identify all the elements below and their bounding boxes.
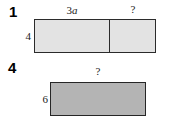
bottom-rectangle — [50, 82, 146, 116]
top-rectangle-divider — [109, 20, 110, 52]
bottom-rect-height-label: 6 — [36, 94, 48, 105]
problem-number-4: 4 — [8, 60, 16, 75]
top-rect-right-part-label: ? — [110, 4, 156, 15]
area-model-figure: 1 3a ? 4 4 ? 6 — [0, 0, 170, 120]
top-rectangle — [34, 19, 156, 53]
top-rect-height-label: 4 — [18, 31, 31, 42]
bottom-rect-width-label: ? — [74, 66, 122, 77]
problem-number-1: 1 — [9, 4, 17, 19]
top-rect-left-part-label: 3a — [34, 5, 110, 16]
variable-a: a — [72, 4, 78, 16]
